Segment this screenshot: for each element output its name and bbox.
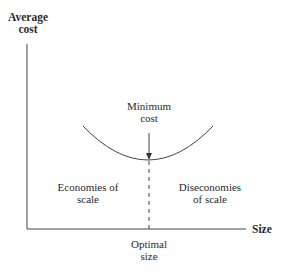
minimum-cost-label: Minimum cost <box>119 100 179 124</box>
diagram-canvas <box>0 0 288 272</box>
arrowhead-icon <box>146 153 152 160</box>
x-axis-label: Size <box>252 223 282 235</box>
optimal-size-label: Optimal size <box>119 238 179 262</box>
diseconomies-of-scale-label: Diseconomies of scale <box>170 181 250 205</box>
economies-of-scale-label: Economies of scale <box>48 181 128 205</box>
y-axis-label: Average cost <box>4 11 52 35</box>
